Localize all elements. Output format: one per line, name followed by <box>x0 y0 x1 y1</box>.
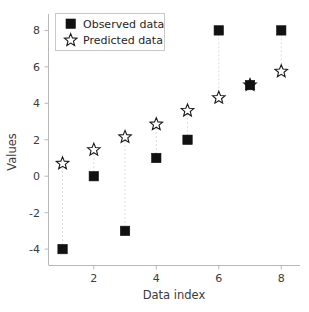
observed-data-marker <box>183 135 192 144</box>
predicted-data-marker <box>212 91 225 103</box>
y-tick-label: 2 <box>33 134 40 147</box>
x-tick-label: 2 <box>90 272 97 285</box>
y-tick-label: 6 <box>33 61 40 74</box>
x-tick-label: 4 <box>153 272 160 285</box>
y-tick-label: -4 <box>29 243 40 256</box>
observed-data-marker <box>152 153 161 162</box>
predicted-data-marker <box>119 130 132 142</box>
x-axis-ticks: 2468 <box>90 266 284 286</box>
observed-data-marker <box>58 244 67 253</box>
predicted-data-marker <box>275 65 288 77</box>
observed-data-marker <box>120 226 129 235</box>
observed-data-marker <box>245 80 254 89</box>
scatter-plot: -4-202468 2468 Values Data index Observe… <box>0 0 309 312</box>
predicted-data-marker <box>181 104 194 116</box>
y-axis-ticks: -4-202468 <box>29 24 48 256</box>
observed-data-marker <box>89 171 98 180</box>
x-tick-label: 6 <box>215 272 222 285</box>
predicted-data-marker <box>56 157 69 169</box>
y-tick-label: 4 <box>33 97 40 110</box>
y-axis-title: Values <box>5 133 19 171</box>
y-tick-label: -2 <box>29 207 40 220</box>
legend-label-predicted: Predicted data <box>83 34 163 47</box>
chart-legend: Observed data Predicted data <box>56 14 165 51</box>
observed-data-marker <box>277 26 286 35</box>
y-tick-label: 8 <box>33 24 40 37</box>
connector-lines <box>63 30 282 249</box>
predicted-data-marker <box>150 118 163 130</box>
observed-data-points <box>58 26 286 254</box>
y-tick-label: 0 <box>33 170 40 183</box>
x-tick-label: 8 <box>278 272 285 285</box>
legend-filled-square-marker <box>66 19 75 28</box>
chart-figure: -4-202468 2468 Values Data index Observe… <box>0 0 309 312</box>
observed-data-marker <box>214 26 223 35</box>
axis-spines <box>49 14 301 266</box>
legend-label-observed: Observed data <box>83 18 164 31</box>
predicted-data-marker <box>88 143 101 155</box>
x-axis-title: Data index <box>143 288 206 302</box>
